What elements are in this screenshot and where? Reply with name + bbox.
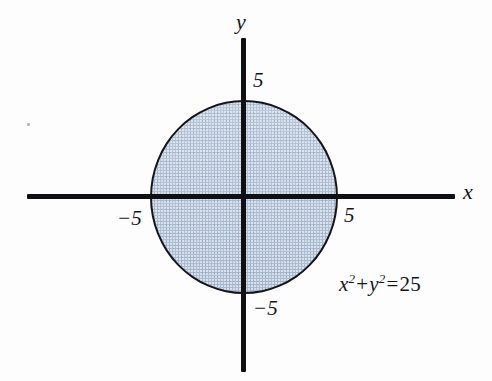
equation-plus-sign: + (355, 272, 369, 296)
math-figure-canvas: y x 5 −5 −5 5 x2+y2=25 (0, 0, 492, 381)
x-axis-tick-label-negative-5: −5 (117, 208, 142, 229)
equation-value: 25 (400, 272, 421, 296)
x-axis-label: x (463, 181, 473, 203)
y-axis-label: y (236, 11, 246, 33)
scan-speck (27, 123, 30, 126)
equation-term-y: y (369, 272, 379, 296)
equation-term-x: x (339, 272, 349, 296)
y-axis-tick-label-negative-5: −5 (253, 298, 278, 319)
x-axis-tick-label-positive-5: 5 (344, 205, 355, 226)
y-axis-tick-label-positive-5: 5 (253, 70, 264, 91)
equation-equals-sign: = (386, 272, 400, 296)
y-axis-line-overlay (241, 100, 246, 294)
circle-equation-label: x2+y2=25 (339, 272, 421, 295)
equation-exponent-y: 2 (379, 271, 386, 286)
